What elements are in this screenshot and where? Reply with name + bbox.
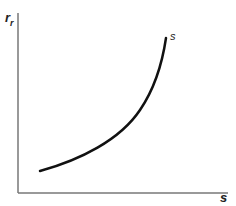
supply-curve: [40, 38, 166, 171]
chart-canvas: [0, 0, 236, 206]
curve-label: s: [170, 30, 176, 42]
x-axis-label: s: [220, 190, 227, 205]
y-axis-label: rr: [5, 10, 14, 28]
